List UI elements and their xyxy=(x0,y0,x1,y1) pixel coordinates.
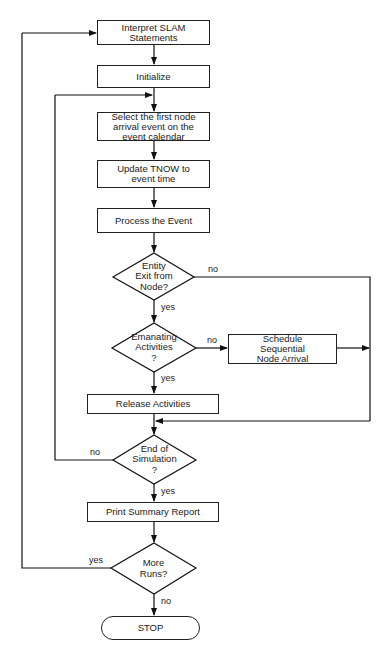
edge-label-more-runs-no: no xyxy=(161,596,171,606)
node-process-event: Process the Event xyxy=(97,208,210,233)
edge-label-entity-exit-yes: yes xyxy=(161,302,175,312)
node-print-summary: Print Summary Report xyxy=(87,502,219,522)
node-release-activities: Release Activities xyxy=(87,394,219,414)
decision-emanating-text: Emanating Activities ? xyxy=(112,323,196,372)
edge-label-entity-exit-no: no xyxy=(208,264,218,274)
edge-label-end-sim-no: no xyxy=(90,447,100,457)
decision-more-runs-text: More Runs? xyxy=(111,543,196,594)
node-schedule-arrival: Schedule Sequential Node Arrival xyxy=(228,334,337,364)
decision-end-sim-text: End of Simulation ? xyxy=(113,435,196,484)
decision-entity-exit-text: Entity Exit from Node? xyxy=(113,253,195,300)
edge-label-emanating-no: no xyxy=(207,335,217,345)
node-update-tnow: Update TNOW to event time xyxy=(97,160,210,188)
node-initialize: Initialize xyxy=(97,65,210,88)
node-select-first-event: Select the first node arrival event on t… xyxy=(97,112,210,141)
node-interpret-slam: Interpret SLAM Statements xyxy=(97,20,210,45)
edge-label-more-runs-yes: yes xyxy=(89,555,103,565)
node-stop-terminal: STOP xyxy=(101,616,200,640)
edge-label-end-sim-yes: yes xyxy=(161,486,175,496)
edge-label-emanating-yes: yes xyxy=(161,373,175,383)
